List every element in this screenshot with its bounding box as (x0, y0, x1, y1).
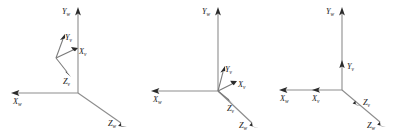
world-z-axis-1 (78, 93, 127, 127)
world-y-axis-3 (339, 7, 345, 90)
world-z-axis-3 (342, 90, 386, 127)
world-y-axis-2 (215, 7, 221, 91)
vehicle-z-axis-1 (56, 58, 71, 77)
label-vehicle-y-1: Yv (65, 33, 73, 43)
diagram-panel-3: Yw Xw Zw Yv Xv Zv (270, 0, 398, 140)
diagram-panel-1: Yw Xw Zw Yv Xv Zv (0, 0, 140, 140)
label-vehicle-x-3: Xv (311, 94, 320, 104)
diagram-panel-2: Yw Xw Zw Yv Xv Zv (140, 0, 270, 140)
vehicle-z-axis-2 (218, 91, 234, 104)
label-world-z-2: Zw (239, 121, 248, 131)
label-vehicle-x-1: Xv (78, 47, 87, 57)
label-vehicle-y-2: Yv (225, 65, 233, 75)
vehicle-x-axis-2 (218, 81, 237, 91)
label-world-x-2: Xw (152, 95, 162, 105)
label-world-x-1: Xw (12, 97, 22, 107)
label-world-y-1: Yw (62, 7, 71, 17)
label-vehicle-x-2: Xv (237, 80, 246, 90)
label-world-z-3: Zw (367, 121, 376, 131)
label-vehicle-y-3: Yv (347, 62, 355, 72)
label-world-x-3: Xw (279, 94, 289, 104)
world-x-axis-2 (151, 88, 218, 94)
label-world-y-2: Yw (202, 7, 211, 17)
label-world-z-1: Zw (108, 119, 117, 129)
world-x-axis-3 (279, 87, 342, 93)
world-x-axis-1 (11, 90, 78, 96)
label-vehicle-z-3: Zv (363, 98, 371, 108)
label-world-y-3: Yw (326, 7, 335, 17)
label-vehicle-z-1: Zv (63, 77, 71, 87)
coordinate-frames-figure: Yw Xw Zw Yv Xv Zv (0, 0, 398, 140)
